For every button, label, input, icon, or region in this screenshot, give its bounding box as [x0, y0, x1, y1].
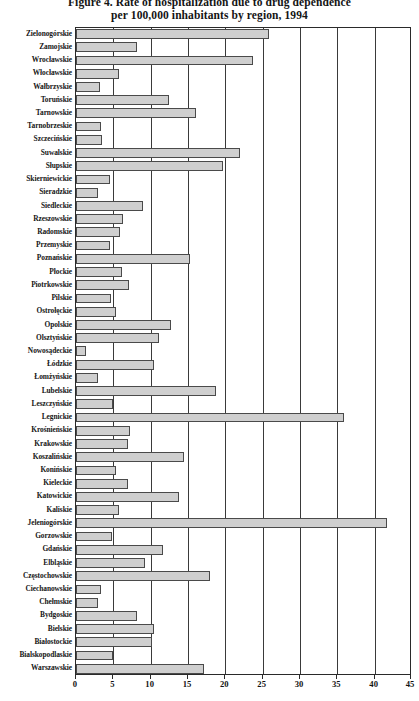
category-label-kieleckie: Kieleckie: [0, 478, 72, 487]
category-label-bielskie: Bielskie: [0, 624, 72, 633]
category-label-bydgoskie: Bydgoskie: [0, 610, 72, 619]
bar-row: [76, 491, 410, 504]
bar-skierniewickie[interactable]: [76, 175, 110, 185]
bar-piotrkowskie[interactable]: [76, 280, 129, 290]
bar-row: [76, 650, 410, 663]
category-label-konińskie: Konińskie: [0, 465, 72, 474]
category-label-ostrołęckie: Ostrołęckie: [0, 306, 72, 315]
x-tick-label-35: 35: [321, 679, 351, 690]
category-axis-labels: ZielonogórskieZamojskieWrocławskieWłocła…: [0, 27, 72, 675]
bar-wałbrzyskie[interactable]: [76, 82, 100, 92]
bar-suwalskie[interactable]: [76, 148, 240, 158]
bar-row: [76, 173, 410, 186]
category-label-leszczyńskie: Leszczyńskie: [0, 399, 72, 408]
bar-row: [76, 478, 410, 491]
bar-row: [76, 253, 410, 266]
bar-row: [76, 663, 410, 676]
bar-jeleniogórskie[interactable]: [76, 518, 387, 528]
bar-zamojskie[interactable]: [76, 42, 137, 52]
bar-kieleckie[interactable]: [76, 479, 128, 489]
bar-lubelskie[interactable]: [76, 386, 216, 396]
bar-przemyskie[interactable]: [76, 241, 110, 251]
bar-sieradzkie[interactable]: [76, 188, 98, 198]
bar-toruńskie[interactable]: [76, 95, 169, 105]
bar-poznańskie[interactable]: [76, 254, 190, 264]
category-label-tarnowskie: Tarnowskie: [0, 108, 72, 117]
bar-row: [76, 240, 410, 253]
bar-płockie[interactable]: [76, 267, 122, 277]
bar-leszczyńskie[interactable]: [76, 399, 113, 409]
category-label-rzeszowskie: Rzeszowskie: [0, 214, 72, 223]
bar-row: [76, 412, 410, 425]
bar-włocławskie[interactable]: [76, 69, 119, 79]
bar-row: [76, 200, 410, 213]
bar-łódzkie[interactable]: [76, 360, 154, 370]
bar-row: [76, 372, 410, 385]
category-label-gorzowskie: Gorzowskie: [0, 531, 72, 540]
figure-container: Figure 4. Rate of hospitalization due to…: [0, 0, 419, 701]
bar-pilskie[interactable]: [76, 294, 111, 304]
bar-bialskopodlaskie[interactable]: [76, 651, 113, 661]
bar-chełmskie[interactable]: [76, 598, 98, 608]
bar-row: [76, 451, 410, 464]
value-axis: 051015202530354045: [75, 675, 411, 697]
category-label-poznańskie: Poznańskie: [0, 253, 72, 262]
bar-warszawskie[interactable]: [76, 664, 204, 674]
x-tick-label-25: 25: [247, 679, 277, 690]
category-label-zamojskie: Zamojskie: [0, 42, 72, 51]
bar-ciechanowskie[interactable]: [76, 585, 101, 595]
bar-częstochowskie[interactable]: [76, 571, 210, 581]
bar-row: [76, 226, 410, 239]
x-tick-label-15: 15: [172, 679, 202, 690]
category-label-skierniewickie: Skierniewickie: [0, 174, 72, 183]
bar-krośnieńskie[interactable]: [76, 426, 130, 436]
bar-olsztyńskie[interactable]: [76, 333, 159, 343]
figure-title-line-2: per 100,000 inhabitants by region, 1994: [0, 9, 419, 22]
category-label-bialskopodlaskie: Bialskopodlaskie: [0, 650, 72, 659]
x-tick-label-20: 20: [209, 679, 239, 690]
bar-elbląskie[interactable]: [76, 558, 145, 568]
bar-tarnowskie[interactable]: [76, 108, 196, 118]
category-label-legnickie: Legnickie: [0, 412, 72, 421]
category-label-siedleckie: Siedleckie: [0, 201, 72, 210]
category-label-piotrkowskie: Piotrkowskie: [0, 280, 72, 289]
bar-konińskie[interactable]: [76, 466, 116, 476]
bar-szczecińskie[interactable]: [76, 135, 102, 145]
category-label-gdańskie: Gdańskie: [0, 544, 72, 553]
bar-row: [76, 28, 410, 41]
bar-kaliskie[interactable]: [76, 505, 119, 515]
bar-row: [76, 385, 410, 398]
bar-row: [76, 134, 410, 147]
bar-ostrołęckie[interactable]: [76, 307, 116, 317]
bar-row: [76, 544, 410, 557]
bar-gdańskie[interactable]: [76, 545, 163, 555]
bar-tarnobrzeskie[interactable]: [76, 122, 101, 132]
x-tick-label-30: 30: [284, 679, 314, 690]
bar-row: [76, 332, 410, 345]
bar-legnickie[interactable]: [76, 413, 344, 423]
category-label-włocławskie: Włocławskie: [0, 68, 72, 77]
bar-rzeszowskie[interactable]: [76, 214, 123, 224]
bar-zielonogórskie[interactable]: [76, 29, 269, 39]
bar-nowosądeckie[interactable]: [76, 346, 86, 356]
bar-łomżyńskie[interactable]: [76, 373, 98, 383]
bar-gorzowskie[interactable]: [76, 532, 112, 542]
bar-wrocławskie[interactable]: [76, 56, 253, 66]
bar-siedleckie[interactable]: [76, 201, 143, 211]
bar-krakowskie[interactable]: [76, 439, 128, 449]
bar-radomskie[interactable]: [76, 227, 120, 237]
bar-row: [76, 517, 410, 530]
bar-row: [76, 160, 410, 173]
x-tick-label-5: 5: [97, 679, 127, 690]
bar-katowickie[interactable]: [76, 492, 179, 502]
bar-row: [76, 345, 410, 358]
bar-row: [76, 306, 410, 319]
bar-słupskie[interactable]: [76, 161, 223, 171]
bar-bielskie[interactable]: [76, 624, 154, 634]
bar-bydgoskie[interactable]: [76, 611, 137, 621]
bar-opolskie[interactable]: [76, 320, 171, 330]
bar-row: [76, 213, 410, 226]
bar-row: [76, 464, 410, 477]
bar-białostockie[interactable]: [76, 637, 152, 647]
bar-koszalińskie[interactable]: [76, 452, 184, 462]
